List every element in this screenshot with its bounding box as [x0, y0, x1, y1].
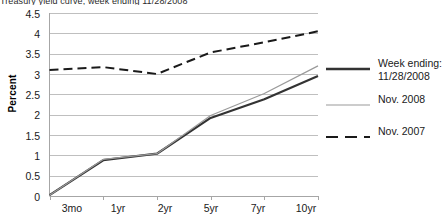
legend-item-week-ending: Week ending: 11/28/2008	[326, 58, 447, 84]
series-line	[50, 66, 319, 195]
series-line	[50, 31, 319, 74]
legend-label-week-ending: Week ending: 11/28/2008	[378, 57, 442, 82]
legend-swatch-week-ending	[326, 63, 370, 75]
chart-figure: Treasury yield curve, week ending 11/28/…	[0, 0, 447, 224]
legend-swatch-nov-2007	[326, 131, 370, 143]
series-lines	[50, 31, 319, 195]
legend-label-nov-2007: Nov. 2007	[378, 125, 425, 138]
legend-swatch-nov-2008	[326, 99, 370, 111]
legend-label-nov-2008: Nov. 2008	[378, 93, 425, 106]
legend-item-nov-2008: Nov. 2008	[326, 94, 447, 120]
legend-item-nov-2007: Nov. 2007	[326, 126, 447, 152]
